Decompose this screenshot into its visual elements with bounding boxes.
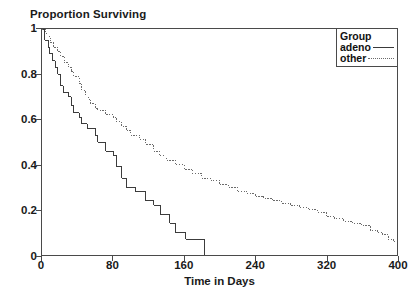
legend-item-other-label: other xyxy=(340,53,366,64)
x-tick-mark xyxy=(41,256,42,261)
x-tick-mark xyxy=(398,256,399,261)
x-axis-title: Time in Days xyxy=(41,275,398,287)
x-tick-mark xyxy=(255,256,256,261)
survival-chart-figure: Proportion Surviving 00.20.40.60.81 0801… xyxy=(0,0,418,303)
x-tick-mark xyxy=(327,256,328,261)
legend-key-solid-line xyxy=(373,47,394,48)
legend-item-other[interactable]: other xyxy=(340,53,397,64)
legend: Group adeno other xyxy=(336,28,398,67)
x-tick-mark xyxy=(112,256,113,261)
x-tick-mark xyxy=(184,256,185,261)
legend-key-dotted-line xyxy=(368,58,394,59)
series-line-adeno xyxy=(42,29,220,255)
